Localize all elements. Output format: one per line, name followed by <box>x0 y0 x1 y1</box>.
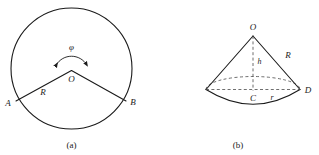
center-label-O: O <box>68 74 75 84</box>
radius-segment-OB <box>72 71 127 102</box>
base-radius-label-r: r <box>270 93 274 102</box>
base-point-label-D: D <box>304 85 312 95</box>
slant-edge-left <box>206 36 253 90</box>
caption-b: (b) <box>233 140 244 150</box>
panel-b-cone: O h R C r D (b) <box>206 22 312 150</box>
apex-label-O: O <box>250 22 257 32</box>
slant-label-R: R <box>284 50 291 60</box>
point-label-A: A <box>4 98 11 108</box>
angle-label-phi: φ <box>69 42 74 52</box>
caption-a: (a) <box>67 140 77 150</box>
geometry-figure: φ O R A B (a) <box>0 0 319 155</box>
point-label-B: B <box>130 97 136 107</box>
panel-a-circle-sector: φ O R A B (a) <box>4 8 136 150</box>
base-center-label-C: C <box>250 93 257 103</box>
radius-label-R: R <box>39 87 46 97</box>
figure-root: φ O R A B (a) <box>0 0 319 155</box>
angle-arc-phi <box>57 56 87 64</box>
height-label-h: h <box>258 57 262 66</box>
circle-outline <box>11 8 132 129</box>
